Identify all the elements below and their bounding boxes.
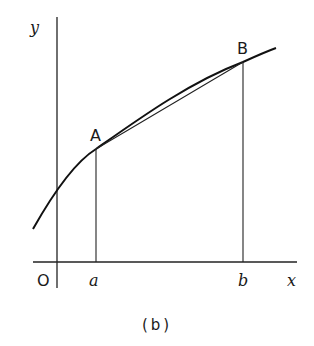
b-tick-label: b: [238, 271, 248, 290]
function-curve: [33, 48, 276, 229]
origin-label: O: [37, 271, 50, 290]
point-a-label: A: [90, 126, 101, 145]
point-b-label: B: [237, 39, 248, 58]
a-tick-label: a: [89, 271, 99, 290]
diagram-canvas: y A B O a b x (b): [0, 0, 314, 346]
figure-caption: (b): [142, 316, 172, 334]
y-axis-label: y: [29, 18, 40, 37]
x-axis-label: x: [287, 271, 296, 290]
chord-ab: [96, 62, 243, 149]
